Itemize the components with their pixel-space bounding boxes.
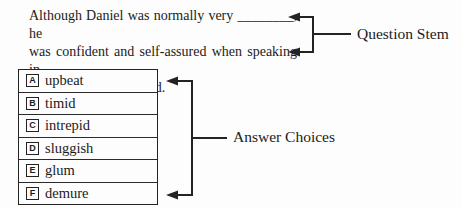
- question-stem-label: Question Stem: [357, 25, 449, 43]
- arrow-left-icon: [166, 77, 178, 86]
- question-stem-bracket: [284, 10, 354, 58]
- choice-text: upbeat: [45, 72, 84, 89]
- choice-letter-box: C: [26, 119, 39, 132]
- choice-text: demure: [45, 185, 88, 202]
- choice-text: glum: [45, 162, 75, 179]
- arrow-left-icon: [288, 13, 300, 22]
- choice-row-e: E glum: [19, 160, 157, 183]
- answer-choices-box: A upbeat B timid C intrepid D sluggish E…: [18, 69, 158, 205]
- bracket-lines: [176, 80, 227, 196]
- choice-text: timid: [45, 95, 76, 112]
- choice-letter-box: F: [26, 187, 39, 200]
- choice-letter-box: B: [26, 97, 39, 110]
- choice-row-f: F demure: [19, 183, 157, 205]
- choice-row-a: A upbeat: [19, 70, 157, 93]
- choice-letter-box: E: [26, 164, 39, 177]
- choice-row-b: B timid: [19, 93, 157, 116]
- bracket-lines: [298, 16, 351, 53]
- arrow-left-icon: [166, 191, 178, 200]
- choice-text: sluggish: [45, 140, 93, 157]
- choice-row-d: D sluggish: [19, 138, 157, 161]
- answer-choices-bracket: [162, 74, 232, 204]
- stem-line-1: Although Daniel was normally very ______…: [29, 7, 297, 43]
- page: Although Daniel was normally very ______…: [0, 0, 462, 208]
- choice-letter-box: A: [26, 74, 39, 87]
- choice-row-c: C intrepid: [19, 115, 157, 138]
- answer-choices-label: Answer Choices: [233, 128, 335, 146]
- choice-text: intrepid: [45, 117, 90, 134]
- arrow-left-icon: [288, 48, 300, 57]
- choice-letter-box: D: [26, 142, 39, 155]
